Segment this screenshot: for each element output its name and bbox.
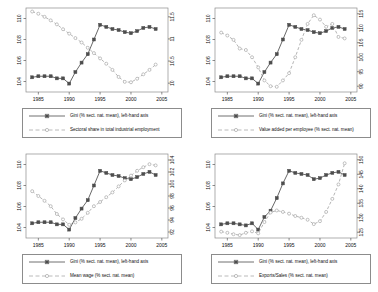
svg-text:11: 11 [169,36,175,41]
legend-item-gini: Gini (% sect. nat. mean), left-hand axis [23,109,181,123]
svg-text:1985: 1985 [222,242,233,248]
svg-text:10.5: 10.5 [169,56,175,66]
svg-text:10: 10 [169,80,175,86]
legend-item-secondary: Mean wage (% sect. nat. mean) [23,269,181,283]
svg-text:2005: 2005 [345,242,356,248]
svg-text:108: 108 [205,181,211,190]
svg-text:1995: 1995 [95,242,106,248]
svg-text:106: 106 [16,56,22,65]
svg-text:106: 106 [16,202,22,211]
plot-area-top-right: 1985199019952000200510410610811090951001… [189,0,378,112]
legend-item-gini: Gini (% sect. nat. mean), left-hand axis [23,255,181,269]
plot-area-bottom-left: 1985199019952000200510410610811092949698… [0,146,189,258]
chart-svg-bottom-left: 1985199019952000200510410610811092949698… [0,146,189,258]
panel-bottom-right: 1985199019952000200510410610811012513013… [189,146,378,292]
legend-swatch-solid-marker [27,256,67,268]
svg-text:108: 108 [16,181,22,190]
svg-text:1995: 1995 [284,96,295,102]
legend-swatch-solid-marker [216,110,256,122]
legend-label-gini: Gini (% sect. nat. mean), left-hand axis [256,259,337,265]
legend-swatch-dashed-marker [27,124,67,136]
legend-item-secondary: Value added per employee (% sect. nat. m… [212,123,370,137]
svg-text:104: 104 [16,77,22,86]
svg-text:1985: 1985 [222,96,233,102]
svg-text:104: 104 [205,77,211,86]
svg-text:2000: 2000 [125,242,136,248]
svg-text:95: 95 [358,69,364,75]
svg-text:2005: 2005 [156,96,167,102]
legend-label-gini: Gini (% sect. nat. mean), left-hand axis [256,113,337,119]
svg-text:108: 108 [205,35,211,44]
svg-text:110: 110 [16,160,22,168]
legend-item-gini: Gini (% sect. nat. mean), left-hand axis [212,255,370,269]
svg-text:140: 140 [358,184,364,193]
svg-text:90: 90 [358,83,364,89]
legend-swatch-dashed-marker [27,270,67,282]
panel-top-left: 198519901995200020051041061081101010.511… [0,0,189,146]
svg-text:1990: 1990 [64,242,75,248]
legend-bottom-right: Gini (% sect. nat. mean), left-hand axis… [211,254,371,284]
legend-bottom-left: Gini (% sect. nat. mean), left-hand axis… [22,254,182,284]
svg-text:2005: 2005 [345,96,356,102]
legend-item-secondary: Sectoral share in total industrial emplo… [23,123,181,137]
svg-text:104: 104 [169,156,175,165]
legend-swatch-dashed-marker [216,270,256,282]
svg-text:145: 145 [358,170,364,179]
legend-item-gini: Gini (% sect. nat. mean), left-hand axis [212,109,370,123]
legend-label-secondary: Value added per employee (% sect. nat. m… [256,127,354,133]
legend-swatch-dashed-marker [216,124,256,136]
svg-text:102: 102 [169,168,175,177]
svg-text:2000: 2000 [314,96,325,102]
panel-bottom-left: 1985199019952000200510410610811092949698… [0,146,189,292]
chart-svg-top-left: 198519901995200020051041061081101010.511… [0,0,189,112]
legend-label-secondary: Exports/Sales (% sect. nat. mean) [256,273,328,279]
svg-text:100: 100 [358,53,364,62]
svg-text:105: 105 [358,38,364,47]
svg-text:110: 110 [16,14,22,22]
svg-text:96: 96 [169,205,175,211]
legend-label-gini: Gini (% sect. nat. mean), left-hand axis [67,113,148,119]
legend-swatch-solid-marker [216,256,256,268]
svg-text:125: 125 [358,228,364,237]
svg-text:2000: 2000 [125,96,136,102]
svg-text:1995: 1995 [284,242,295,248]
svg-text:106: 106 [205,56,211,65]
svg-text:106: 106 [205,202,211,211]
svg-text:92: 92 [169,229,175,235]
svg-text:150: 150 [358,155,364,164]
svg-text:104: 104 [205,223,211,232]
svg-text:110: 110 [358,24,364,32]
legend-label-secondary: Sectoral share in total industrial emplo… [67,127,160,133]
svg-text:2000: 2000 [314,242,325,248]
svg-text:1985: 1985 [33,242,44,248]
plot-area-top-left: 198519901995200020051041061081101010.511… [0,0,189,112]
svg-text:110: 110 [205,160,211,168]
svg-text:130: 130 [358,213,364,222]
svg-text:100: 100 [169,180,175,189]
svg-text:104: 104 [16,223,22,232]
chart-svg-top-right: 1985199019952000200510410610811090951001… [189,0,378,112]
legend-label-secondary: Mean wage (% sect. nat. mean) [67,273,134,279]
legend-label-gini: Gini (% sect. nat. mean), left-hand axis [67,259,148,265]
legend-top-left: Gini (% sect. nat. mean), left-hand axis… [22,108,182,138]
legend-top-right: Gini (% sect. nat. mean), left-hand axis… [211,108,371,138]
legend-item-secondary: Exports/Sales (% sect. nat. mean) [212,269,370,283]
svg-text:1985: 1985 [33,96,44,102]
legend-swatch-solid-marker [27,110,67,122]
svg-text:1995: 1995 [95,96,106,102]
svg-text:1990: 1990 [253,242,264,248]
svg-text:98: 98 [169,193,175,199]
svg-text:11.5: 11.5 [169,12,175,22]
svg-text:108: 108 [16,35,22,44]
chart-svg-bottom-right: 1985199019952000200510410610811012513013… [189,146,378,258]
plot-area-bottom-right: 1985199019952000200510410610811012513013… [189,146,378,258]
svg-text:115: 115 [358,10,364,18]
svg-text:1990: 1990 [253,96,264,102]
panel-top-right: 1985199019952000200510410610811090951001… [189,0,378,146]
figure-four-panel-gini-chart: 198519901995200020051041061081101010.511… [0,0,378,292]
svg-text:110: 110 [205,14,211,22]
svg-text:2005: 2005 [156,242,167,248]
svg-text:94: 94 [169,217,175,223]
svg-text:135: 135 [358,199,364,208]
svg-text:1990: 1990 [64,96,75,102]
